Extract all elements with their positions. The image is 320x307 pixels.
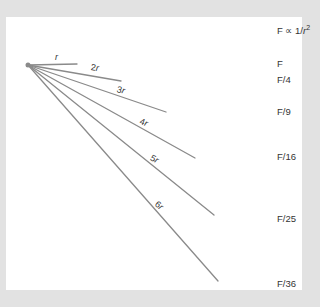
distance-label-1: r: [55, 52, 58, 62]
force-label-6: F/36: [277, 278, 296, 289]
source-point: [26, 63, 31, 68]
force-label-4: F/16: [277, 151, 296, 162]
inverse-square-law-label: F ∝ 1/r2: [277, 24, 310, 36]
distance-label-2: 2r: [90, 62, 99, 73]
force-label-5: F/25: [277, 213, 296, 224]
distance-variable: r: [55, 52, 58, 62]
law-prefix: F ∝ 1/: [277, 25, 303, 36]
force-label-3: F/9: [277, 106, 291, 117]
force-label-2: F/4: [277, 74, 291, 85]
ray-line-1: [28, 64, 77, 65]
inverse-square-rays: [0, 0, 320, 307]
force-label-1: F: [277, 58, 283, 69]
law-exponent: 2: [306, 24, 310, 31]
